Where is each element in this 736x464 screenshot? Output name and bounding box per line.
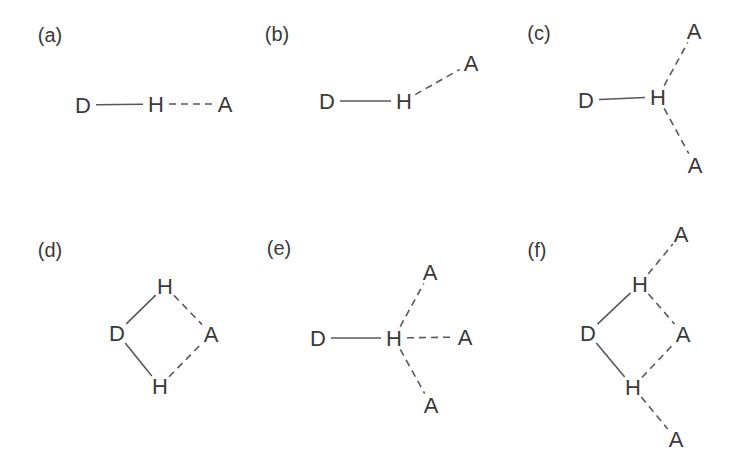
panel-d: (d)HDAH bbox=[38, 239, 219, 399]
hydrogen-bond-f-H2-A3 bbox=[641, 397, 667, 429]
atom-e-A2: A bbox=[458, 325, 473, 350]
atom-e-D: D bbox=[310, 326, 326, 351]
atom-f-H1: H bbox=[632, 272, 648, 297]
hydrogen-bond-diagram: (a)DHA(b)DHA(c)DHAA(d)HDAH(e)DHAAA(f)AHD… bbox=[0, 0, 736, 464]
atom-d-H1: H bbox=[157, 274, 173, 299]
atom-b-D: D bbox=[319, 89, 335, 114]
figure-canvas: (a)DHA(b)DHA(c)DHAA(d)HDAH(e)DHAAA(f)AHD… bbox=[0, 0, 736, 464]
covalent-bond-c-D-H bbox=[599, 98, 645, 100]
atom-c-A1: A bbox=[687, 19, 702, 44]
atom-f-D: D bbox=[580, 321, 596, 346]
panel-c: (c)DHAA bbox=[527, 19, 702, 178]
atom-c-A2: A bbox=[688, 153, 703, 178]
panel-label-d: (d) bbox=[38, 239, 62, 261]
atom-c-D: D bbox=[578, 88, 594, 113]
covalent-bond-d-D-H2 bbox=[125, 343, 152, 376]
covalent-bond-f-D-H1 bbox=[598, 293, 631, 324]
hydrogen-bond-f-H2-A2 bbox=[642, 344, 674, 378]
atom-a-A: A bbox=[218, 92, 233, 117]
panel-f: (f)AHDAHA bbox=[528, 222, 691, 452]
covalent-bond-d-D-H1 bbox=[126, 295, 155, 324]
panel-b: (b)DHA bbox=[265, 23, 479, 114]
atom-f-A3: A bbox=[669, 427, 684, 452]
panel-label-b: (b) bbox=[265, 23, 289, 45]
atom-c-H: H bbox=[650, 85, 666, 110]
panel-label-f: (f) bbox=[528, 239, 547, 261]
hydrogen-bond-f-H1-A2 bbox=[649, 294, 675, 324]
hydrogen-bond-e-H-A2 bbox=[407, 337, 452, 338]
hydrogen-bond-d-H1-A bbox=[174, 295, 202, 324]
hydrogen-bond-e-H-A1 bbox=[400, 283, 424, 326]
atom-d-A: A bbox=[204, 322, 219, 347]
atom-d-D: D bbox=[109, 321, 125, 346]
atom-e-A3: A bbox=[424, 393, 439, 418]
atom-f-A2: A bbox=[676, 322, 691, 347]
panel-a: (a)DHA bbox=[38, 24, 233, 118]
hydrogen-bond-d-H2-A bbox=[169, 343, 202, 376]
atom-b-A: A bbox=[464, 51, 479, 76]
panel-label-c: (c) bbox=[527, 22, 550, 44]
panel-label-a: (a) bbox=[38, 24, 62, 46]
atom-f-A1: A bbox=[674, 222, 689, 247]
covalent-bond-f-D-H2 bbox=[596, 343, 624, 377]
covalent-bond-a-D-H bbox=[96, 104, 143, 105]
atom-e-H: H bbox=[386, 326, 402, 351]
hydrogen-bond-f-H1-A1 bbox=[648, 244, 673, 274]
panel-label-e: (e) bbox=[267, 237, 291, 259]
hydrogen-bond-c-H-A2 bbox=[664, 108, 689, 153]
panel-e: (e)DHAAA bbox=[267, 237, 473, 418]
atom-a-D: D bbox=[75, 93, 91, 118]
hydrogen-bond-c-H-A1 bbox=[664, 42, 688, 85]
hydrogen-bond-b-H-A bbox=[415, 69, 459, 94]
atom-e-A1: A bbox=[423, 260, 438, 285]
atom-b-H: H bbox=[396, 89, 412, 114]
atom-f-H2: H bbox=[625, 375, 641, 400]
hydrogen-bond-e-H-A3 bbox=[400, 349, 424, 393]
atom-a-H: H bbox=[148, 92, 164, 117]
atom-d-H2: H bbox=[152, 374, 168, 399]
